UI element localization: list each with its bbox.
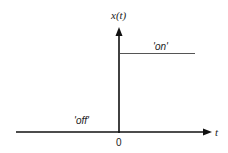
x-axis-label: t [215, 127, 218, 138]
step-function-diagram: x(t) 'on' 'off' 0 t [0, 0, 228, 153]
origin-label: 0 [116, 138, 122, 148]
time-axis-arrowhead-icon [203, 129, 212, 136]
signal-axis-arrowhead-icon [116, 27, 123, 36]
on-state-label: 'on' [153, 42, 168, 52]
diagram-svg [0, 0, 228, 153]
off-state-label: 'off' [74, 116, 89, 126]
y-axis-label: x(t) [111, 10, 126, 21]
